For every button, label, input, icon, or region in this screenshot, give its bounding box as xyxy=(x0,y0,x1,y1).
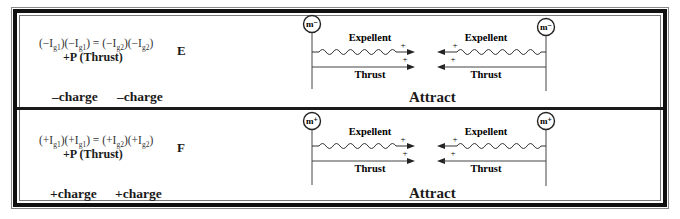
svg-text:+: + xyxy=(452,134,457,144)
svg-text:+: + xyxy=(450,148,455,158)
mass-circle-left-e: m⁻ xyxy=(304,16,321,33)
svg-text:m⁺: m⁺ xyxy=(540,116,552,126)
svg-text:+: + xyxy=(402,54,407,64)
svg-text:m⁻: m⁻ xyxy=(306,19,318,29)
svg-text:+: + xyxy=(450,54,455,64)
thrust-label-left-e: Thrust xyxy=(355,69,386,80)
svg-text:+: + xyxy=(400,134,405,144)
mass-circle-left-f: m⁺ xyxy=(304,113,321,130)
thrust-label-right-e: Thrust xyxy=(471,69,502,80)
thrust-label-right-f: Thrust xyxy=(471,163,502,174)
thrust-label-left-f: Thrust xyxy=(355,163,386,174)
expellent-label-left-f: Expellent xyxy=(349,126,392,137)
expellent-label-right-f: Expellent xyxy=(465,126,508,137)
interaction-diagram-f: m⁺ m⁺ Expellent Expellent Thrust Thrust xyxy=(17,110,663,203)
mass-circle-right-e: m⁻ xyxy=(538,19,555,36)
expellent-label-right-e: Expellent xyxy=(465,32,508,43)
mass-circle-right-f: m⁺ xyxy=(538,113,555,130)
svg-text:m⁻: m⁻ xyxy=(540,22,552,32)
svg-text:+: + xyxy=(400,40,405,50)
svg-text:+: + xyxy=(402,148,407,158)
svg-text:+: + xyxy=(452,40,457,50)
expellent-label-left-e: Expellent xyxy=(349,32,392,43)
svg-text:m⁺: m⁺ xyxy=(306,116,318,126)
interaction-diagram-e: m⁻ m⁻ Expellent Expellent Thrust Thrust xyxy=(17,13,663,107)
row-e: (−Ig1)(−Ig1) = (−Ig2)(−Ig2) +P (Thrust) … xyxy=(17,13,663,107)
row-f: (+Ig1)(+Ig1) = (+Ig2)(+Ig2) +P (Thrust) … xyxy=(17,110,663,203)
